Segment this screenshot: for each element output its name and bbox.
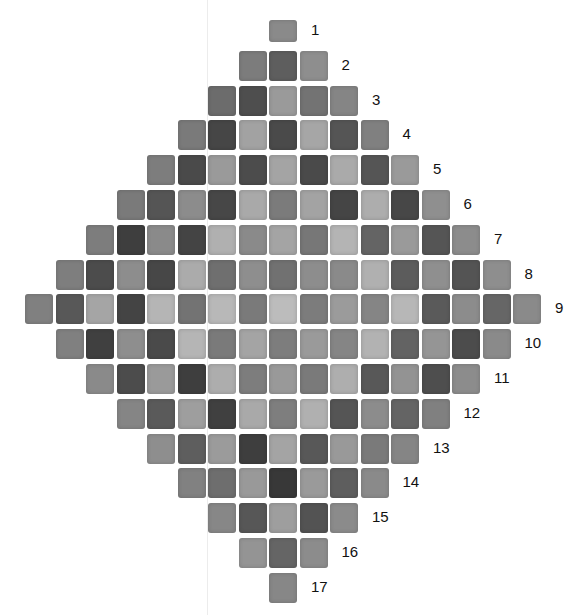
color-swatch bbox=[330, 503, 358, 533]
row-number-label: 14 bbox=[403, 473, 420, 491]
row-number-label: 10 bbox=[525, 334, 542, 352]
color-swatch bbox=[147, 155, 175, 185]
row-number-label: 2 bbox=[342, 56, 350, 74]
color-swatch bbox=[330, 225, 358, 255]
color-swatch bbox=[178, 399, 206, 429]
color-swatch bbox=[361, 468, 389, 498]
color-swatch bbox=[147, 294, 175, 324]
color-swatch bbox=[269, 294, 297, 324]
color-swatch bbox=[208, 294, 236, 324]
color-swatch bbox=[117, 399, 145, 429]
color-swatch bbox=[422, 190, 450, 220]
color-swatch bbox=[178, 260, 206, 290]
color-swatch bbox=[422, 225, 450, 255]
color-swatch bbox=[452, 364, 480, 394]
color-swatch bbox=[56, 329, 84, 359]
color-swatch bbox=[147, 399, 175, 429]
color-swatch bbox=[483, 329, 511, 359]
color-swatch bbox=[269, 225, 297, 255]
color-swatch bbox=[178, 294, 206, 324]
color-swatch bbox=[239, 260, 267, 290]
color-swatch bbox=[147, 225, 175, 255]
color-swatch bbox=[330, 155, 358, 185]
color-swatch bbox=[361, 155, 389, 185]
color-swatch bbox=[269, 190, 297, 220]
color-swatch bbox=[300, 86, 328, 116]
color-swatch bbox=[269, 329, 297, 359]
color-swatch bbox=[330, 364, 358, 394]
color-swatch bbox=[452, 294, 480, 324]
color-swatch bbox=[239, 294, 267, 324]
color-swatch bbox=[208, 86, 236, 116]
color-swatch bbox=[361, 120, 389, 150]
color-swatch bbox=[422, 364, 450, 394]
color-swatch bbox=[452, 260, 480, 290]
color-swatch bbox=[269, 434, 297, 464]
color-swatch bbox=[56, 294, 84, 324]
color-swatch bbox=[300, 190, 328, 220]
color-swatch bbox=[239, 120, 267, 150]
color-swatch bbox=[269, 260, 297, 290]
color-swatch bbox=[361, 225, 389, 255]
swatch-diamond: 1234567891011121314151617 bbox=[0, 0, 587, 615]
color-swatch bbox=[422, 399, 450, 429]
color-swatch bbox=[239, 503, 267, 533]
color-swatch bbox=[330, 434, 358, 464]
color-swatch bbox=[330, 190, 358, 220]
color-swatch bbox=[117, 329, 145, 359]
color-swatch bbox=[208, 329, 236, 359]
color-swatch bbox=[117, 190, 145, 220]
color-swatch bbox=[300, 434, 328, 464]
row-number-label: 6 bbox=[464, 195, 472, 213]
color-swatch bbox=[269, 538, 297, 568]
color-swatch bbox=[269, 399, 297, 429]
color-swatch bbox=[269, 20, 297, 42]
color-swatch bbox=[208, 260, 236, 290]
color-swatch bbox=[300, 225, 328, 255]
color-swatch bbox=[391, 225, 419, 255]
color-swatch bbox=[147, 190, 175, 220]
color-swatch bbox=[300, 329, 328, 359]
color-swatch bbox=[208, 434, 236, 464]
color-swatch bbox=[147, 364, 175, 394]
color-swatch bbox=[391, 190, 419, 220]
color-swatch bbox=[239, 434, 267, 464]
color-swatch bbox=[269, 120, 297, 150]
color-swatch bbox=[178, 329, 206, 359]
color-swatch bbox=[208, 503, 236, 533]
color-swatch bbox=[117, 294, 145, 324]
color-swatch bbox=[361, 364, 389, 394]
color-swatch bbox=[86, 260, 114, 290]
color-swatch bbox=[239, 399, 267, 429]
color-swatch bbox=[330, 329, 358, 359]
color-swatch bbox=[300, 399, 328, 429]
color-swatch bbox=[25, 294, 53, 324]
color-swatch bbox=[391, 294, 419, 324]
color-swatch bbox=[330, 120, 358, 150]
color-swatch bbox=[239, 225, 267, 255]
color-swatch bbox=[178, 120, 206, 150]
color-swatch bbox=[422, 260, 450, 290]
row-number-label: 4 bbox=[403, 125, 411, 143]
color-swatch bbox=[269, 503, 297, 533]
color-swatch bbox=[361, 260, 389, 290]
row-number-label: 3 bbox=[372, 91, 380, 109]
row-number-label: 11 bbox=[494, 369, 510, 387]
color-swatch bbox=[208, 225, 236, 255]
color-swatch bbox=[361, 190, 389, 220]
color-swatch bbox=[208, 155, 236, 185]
color-swatch bbox=[178, 468, 206, 498]
color-swatch bbox=[361, 434, 389, 464]
color-swatch bbox=[330, 86, 358, 116]
color-swatch bbox=[452, 329, 480, 359]
color-swatch bbox=[86, 329, 114, 359]
color-swatch bbox=[269, 573, 297, 603]
color-swatch bbox=[239, 538, 267, 568]
color-swatch bbox=[300, 503, 328, 533]
color-swatch bbox=[117, 260, 145, 290]
color-swatch bbox=[208, 399, 236, 429]
color-swatch bbox=[391, 329, 419, 359]
color-swatch bbox=[483, 260, 511, 290]
color-swatch bbox=[300, 120, 328, 150]
color-swatch bbox=[178, 155, 206, 185]
